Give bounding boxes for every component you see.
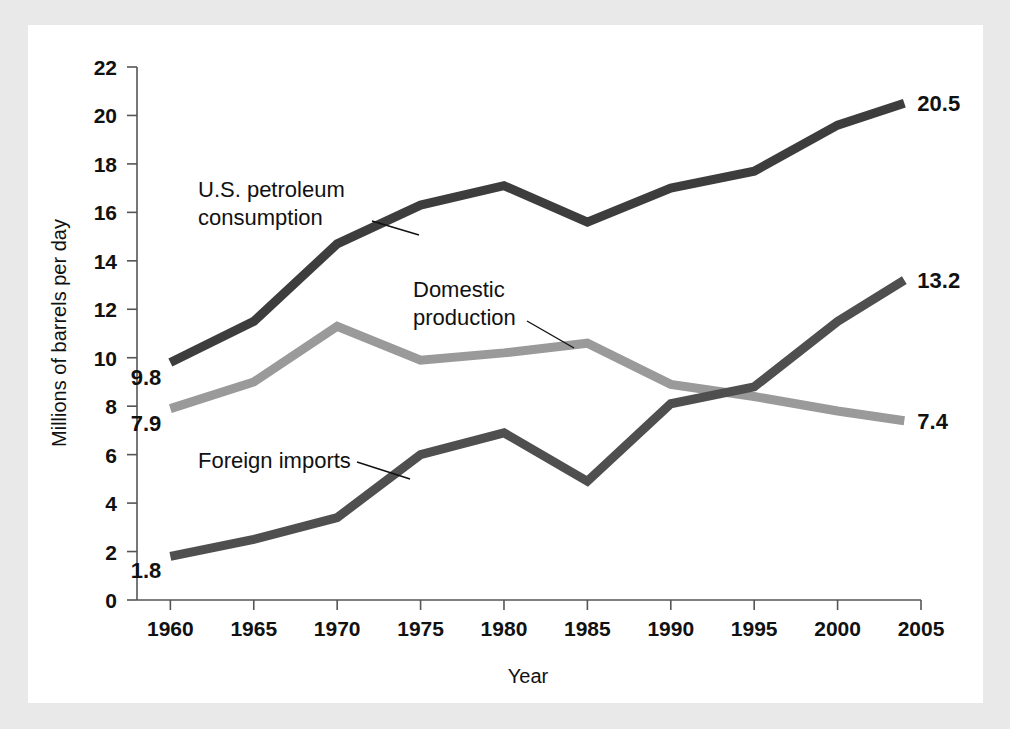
x-tick-label: 2000 [814,617,861,640]
series-start-value-label: 7.9 [131,411,162,436]
y-tick-label: 10 [94,347,117,370]
y-tick-label: 2 [105,541,117,564]
annotation-domestic-production: Domestic production [413,277,574,348]
series-end-value-label: 7.4 [917,409,948,434]
x-tick-label: 1965 [230,617,277,640]
series-line [170,326,904,420]
y-tick-label: 18 [94,153,118,176]
annotation-domestic-line2: production [413,305,516,330]
annotation-foreign-imports: Foreign imports [198,448,410,479]
annotation-us-petroleum-consumption: U.S. petroleum consumption [198,177,419,235]
series-start-value-label: 1.8 [131,558,162,583]
x-axis-title: Year [508,665,549,687]
x-axis-ticks: 1960196519701975198019851990199520002005 [147,600,945,640]
line-chart: 0246810121416182022 19601965197019751980… [28,25,983,703]
series-end-value-label: 20.5 [917,91,960,116]
x-tick-label: 1990 [647,617,694,640]
y-tick-label: 14 [94,250,118,273]
series-lines-group [170,103,904,556]
series-end-value-label: 13.2 [917,268,960,293]
y-tick-label: 16 [94,201,117,224]
x-tick-label: 1975 [397,617,444,640]
x-tick-label: 2005 [898,617,945,640]
endpoint-labels-group: 9.820.57.97.41.813.2 [131,91,960,583]
page-root: 0246810121416182022 19601965197019751980… [0,0,1010,729]
annotation-consumption-line2: consumption [198,205,323,230]
annotation-imports-line1: Foreign imports [198,448,351,473]
y-axis-ticks: 0246810121416182022 [94,56,137,612]
x-tick-label: 1985 [564,617,611,640]
y-tick-label: 20 [94,104,117,127]
x-tick-label: 1980 [481,617,528,640]
x-tick-label: 1970 [314,617,361,640]
y-tick-label: 0 [105,589,117,612]
y-tick-label: 6 [105,444,117,467]
x-tick-label: 1960 [147,617,194,640]
x-tick-label: 1995 [731,617,778,640]
series-line [170,103,904,362]
series-line [170,280,904,556]
chart-figure-panel: 0246810121416182022 19601965197019751980… [28,25,983,703]
y-tick-label: 8 [105,395,117,418]
y-tick-label: 4 [105,492,117,515]
annotation-consumption-line1: U.S. petroleum [198,177,345,202]
y-axis-title: Millions of barrels per day [48,219,70,447]
y-tick-label: 12 [94,298,117,321]
series-start-value-label: 9.8 [131,365,162,390]
y-tick-label: 22 [94,56,117,79]
annotation-domestic-line1: Domestic [413,277,505,302]
